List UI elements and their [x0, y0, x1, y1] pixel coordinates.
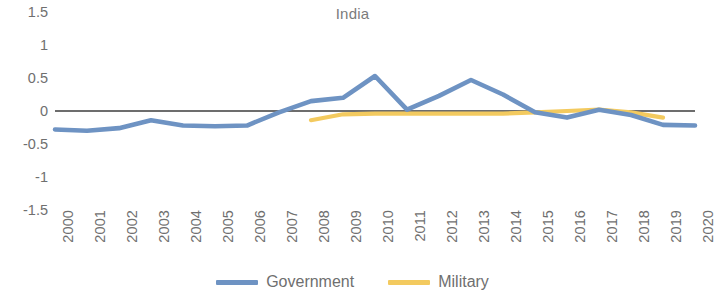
x-axis-tick-2010: 2010 [381, 210, 396, 243]
legend-item-government[interactable]: Government [216, 274, 354, 290]
series-line-government [55, 76, 695, 131]
legend-item-military[interactable]: Military [388, 274, 489, 290]
x-axis-tick-2009: 2009 [349, 210, 364, 243]
x-axis-tick-2008: 2008 [317, 210, 332, 243]
y-axis-tick-4: -0.5 [23, 137, 48, 152]
x-axis-tick-2018: 2018 [637, 210, 652, 243]
x-axis-labels: 2000200120022003200420052006200720082009… [55, 210, 695, 266]
x-axis-tick-2003: 2003 [157, 210, 172, 243]
x-axis-tick-2001: 2001 [93, 210, 108, 243]
x-axis-tick-2002: 2002 [125, 210, 140, 243]
x-axis-tick-2007: 2007 [285, 210, 300, 243]
x-axis-tick-2006: 2006 [253, 210, 268, 243]
y-axis-tick-1: 1 [40, 38, 48, 53]
x-axis-tick-2014: 2014 [509, 210, 524, 243]
chart-legend: Government Military [0, 268, 705, 296]
y-axis-tick-3: 0 [40, 104, 48, 119]
y-axis-tick-5: -1 [35, 170, 48, 185]
x-axis-tick-2013: 2013 [477, 210, 492, 243]
x-axis-tick-2011: 2011 [413, 210, 428, 242]
y-axis-tick-6: -1.5 [23, 203, 48, 218]
x-axis-tick-2015: 2015 [541, 210, 556, 243]
legend-label-government: Government [266, 274, 354, 290]
x-axis-tick-2004: 2004 [189, 210, 204, 243]
legend-swatch-government [216, 280, 258, 285]
y-axis-tick-2: 0.5 [28, 71, 48, 86]
plot-area [55, 12, 695, 210]
legend-label-military: Military [438, 274, 489, 290]
x-axis-tick-2019: 2019 [669, 210, 684, 243]
legend-swatch-military [388, 280, 430, 285]
x-axis-tick-2005: 2005 [221, 210, 236, 243]
x-axis-tick-2017: 2017 [605, 210, 620, 243]
chart-svg [55, 12, 695, 210]
x-axis-tick-2000: 2000 [61, 210, 76, 243]
x-axis-tick-2020: 2020 [701, 210, 716, 243]
x-axis-tick-2016: 2016 [573, 210, 588, 243]
x-axis-tick-2012: 2012 [445, 210, 460, 243]
y-axis-tick-0: 1.5 [28, 5, 48, 20]
y-axis-labels: 1.510.50-0.5-1-1.5 [0, 12, 48, 210]
